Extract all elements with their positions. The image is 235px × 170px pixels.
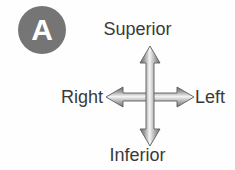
anatomical-orientation-figure: A xyxy=(0,0,235,170)
direction-label-right: Right xyxy=(61,88,103,106)
direction-label-left: Left xyxy=(195,88,225,106)
four-way-direction-arrow-icon xyxy=(104,44,196,148)
direction-label-superior: Superior xyxy=(0,20,235,38)
four-way-direction-arrow-graphic xyxy=(104,44,196,148)
direction-label-inferior: Inferior xyxy=(0,146,235,164)
